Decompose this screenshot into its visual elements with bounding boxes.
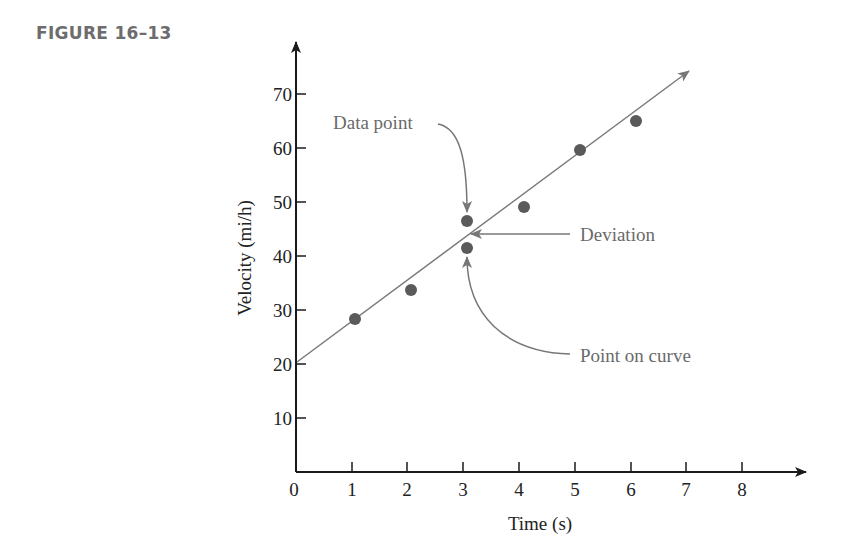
data-point [461,215,473,227]
svg-text:6: 6 [626,479,636,500]
data-point [349,313,361,325]
svg-text:20: 20 [273,354,292,375]
chart: 10 20 30 40 50 60 70 0 1 2 3 4 5 6 7 8 T… [0,0,847,560]
annotation-arrow-data-point [438,124,467,212]
data-point [405,284,417,296]
svg-text:70: 70 [273,84,292,105]
svg-text:50: 50 [273,192,292,213]
x-axis-title: Time (s) [508,513,572,535]
svg-text:0: 0 [289,479,299,500]
data-point [518,201,530,213]
svg-text:2: 2 [402,479,412,500]
data-point [630,115,642,127]
svg-text:3: 3 [458,479,468,500]
annotation-deviation: Deviation [580,224,655,245]
data-points [349,115,642,325]
svg-text:8: 8 [737,479,747,500]
x-tick-labels: 0 1 2 3 4 5 6 7 8 [289,479,747,500]
y-ticks [296,94,306,418]
svg-text:4: 4 [514,479,524,500]
svg-text:60: 60 [273,138,292,159]
svg-text:40: 40 [273,246,292,267]
annotation-point-on-curve: Point on curve [580,345,691,366]
svg-text:7: 7 [681,479,691,500]
svg-text:5: 5 [570,479,580,500]
annotation-data-point: Data point [333,112,413,133]
y-axis-title: Velocity (mi/h) [234,200,256,316]
x-ticks [352,462,742,472]
svg-text:10: 10 [273,408,292,429]
svg-text:1: 1 [347,479,357,500]
svg-text:30: 30 [273,300,292,321]
data-point [461,242,473,254]
data-point [574,144,586,156]
y-tick-labels: 10 20 30 40 50 60 70 [273,84,292,429]
annotation-arrow-point-on-curve [467,257,570,354]
